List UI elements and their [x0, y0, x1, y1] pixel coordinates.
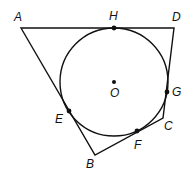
tangent-point-e: [67, 109, 72, 114]
label-d: D: [172, 11, 181, 23]
diagram-svg: [0, 0, 191, 177]
tangent-point-g: [165, 90, 170, 95]
tangent-point-h: [112, 26, 117, 31]
quadrilateral-abcd: [21, 28, 174, 155]
label-h: H: [109, 10, 118, 22]
label-f: F: [134, 139, 141, 151]
label-g: G: [172, 86, 181, 98]
label-b: B: [86, 158, 94, 170]
center-point-o: [112, 80, 116, 84]
label-e: E: [55, 113, 63, 125]
label-c: C: [164, 120, 173, 132]
tangent-point-f: [135, 129, 140, 134]
label-a: A: [14, 11, 22, 23]
geometry-diagram: A H D O G E C F B: [0, 0, 191, 177]
label-o: O: [110, 87, 119, 99]
